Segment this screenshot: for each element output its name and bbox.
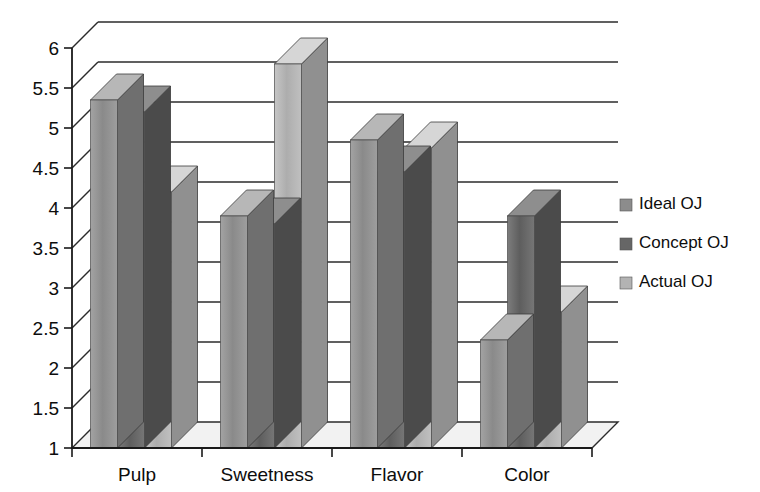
y-tick-label: 6: [48, 38, 59, 59]
y-tick-label: 2.5: [33, 318, 59, 339]
y-tick-label: 2: [48, 358, 59, 379]
bar: [481, 314, 534, 448]
legend-swatch: [620, 199, 632, 211]
y-tick-label: 3.5: [33, 238, 59, 259]
y-tick-label: 5.5: [33, 78, 59, 99]
bars-group: [91, 38, 588, 448]
y-tick-label: 5: [48, 118, 59, 139]
y-tick-label: 4: [48, 198, 59, 219]
chart-container: 65.554.543.532.521.51 PulpSweetnessFlavo…: [0, 0, 760, 492]
y-tick-label: 3: [48, 278, 59, 299]
y-tick-label: 1.5: [33, 398, 59, 419]
y-axis-tick-labels: 65.554.543.532.521.51: [33, 38, 60, 459]
chart-legend: Ideal OJConcept OJActual OJ: [620, 194, 729, 291]
legend-item[interactable]: Ideal OJ: [620, 194, 702, 213]
y-tick-label: 4.5: [33, 158, 59, 179]
legend-label: Actual OJ: [639, 272, 713, 291]
bar: [221, 190, 274, 448]
x-axis-category-labels: PulpSweetnessFlavorColor: [72, 448, 592, 485]
legend-label: Concept OJ: [639, 233, 729, 252]
legend-item[interactable]: Actual OJ: [620, 272, 713, 291]
x-category-label: Pulp: [118, 464, 156, 485]
legend-label: Ideal OJ: [639, 194, 702, 213]
bar: [351, 114, 404, 448]
legend-item[interactable]: Concept OJ: [620, 233, 729, 252]
x-category-label: Color: [504, 464, 550, 485]
y-tick-label: 1: [48, 438, 59, 459]
legend-swatch: [620, 277, 632, 289]
x-category-label: Sweetness: [221, 464, 314, 485]
bar-chart: 65.554.543.532.521.51 PulpSweetnessFlavo…: [0, 0, 760, 492]
legend-swatch: [620, 238, 632, 250]
bar: [91, 74, 144, 448]
x-category-label: Flavor: [371, 464, 424, 485]
